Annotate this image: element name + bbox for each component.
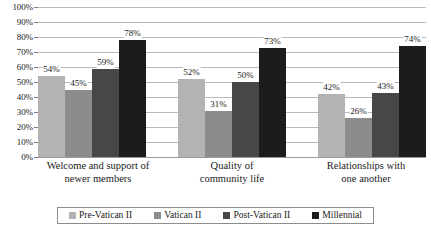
bar-value-label: 43% [376,81,395,92]
bar-pre-vatican-ii[interactable]: 54% [38,76,65,157]
legend-swatch-icon [312,212,319,219]
bar-wrap: 42% [318,7,345,157]
x-label-quality-community-life: Quality of community life [172,160,292,185]
legend-label: Millennial [322,210,362,221]
x-label-line: newer members [38,173,158,186]
bar-chart: 100% 90% 80% 70% 60% 50% 40% 30% 20% 10%… [0,0,431,233]
bar-wrap: 74% [399,7,426,157]
legend-label: Vatican II [164,210,201,221]
bar-vatican-ii[interactable]: 45% [65,90,92,158]
bar-pre-vatican-ii[interactable]: 52% [178,79,205,157]
bar-value-label: 74% [403,34,422,45]
y-tick-label: 100% [12,3,33,12]
legend-label: Post-Vatican II [233,210,290,221]
bar-wrap: 54% [38,7,65,157]
bar-wrap: 73% [259,7,286,157]
bar-wrap: 45% [65,7,92,157]
bar-wrap: 78% [119,7,146,157]
x-label-line: one another [306,173,426,186]
x-label-line: Relationships with [306,160,426,173]
bar-vatican-ii[interactable]: 31% [205,111,232,158]
bar-value-label: 73% [263,36,282,47]
bar-group-relationships: 42% 26% 43% 74% [318,7,426,157]
bar-wrap: 52% [178,7,205,157]
bar-value-label: 78% [123,28,142,39]
bar-millennial[interactable]: 73% [259,48,286,158]
bar-value-label: 42% [322,82,341,93]
bar-value-label: 52% [182,67,201,78]
axis-baseline [38,157,426,158]
bar-wrap: 43% [372,7,399,157]
legend-label: Pre-Vatican II [79,210,132,221]
y-tick-label: 60% [17,63,33,72]
y-tick-label: 40% [17,93,33,102]
legend-item-vatican-ii[interactable]: Vatican II [152,210,203,221]
bar-value-label: 54% [42,64,61,75]
bar-value-label: 50% [236,70,255,81]
legend-swatch-icon [69,212,76,219]
legend-item-millennial[interactable]: Millennial [310,210,364,221]
bar-pre-vatican-ii[interactable]: 42% [318,94,345,157]
bar-group-welcome-support: 54% 45% 59% 78% [38,7,146,157]
legend-swatch-icon [154,212,161,219]
legend-swatch-icon [223,212,230,219]
chart-legend: Pre-Vatican II Vatican II Post-Vatican I… [57,207,374,224]
x-label-line: Quality of [172,160,292,173]
y-tick-label: 80% [17,33,33,42]
bar-millennial[interactable]: 74% [399,46,426,157]
bar-wrap: 59% [92,7,119,157]
x-axis-labels: Welcome and support of newer members Qua… [38,160,426,185]
bar-value-label: 26% [349,106,368,117]
y-tick-label: 0% [21,153,33,162]
bar-group-quality-community-life: 52% 31% 50% 73% [178,7,286,157]
y-tick-label: 30% [17,108,33,117]
x-label-relationships: Relationships with one another [306,160,426,185]
legend-item-post-vatican-ii[interactable]: Post-Vatican II [221,210,292,221]
bar-post-vatican-ii[interactable]: 50% [232,82,259,157]
legend-item-pre-vatican-ii[interactable]: Pre-Vatican II [67,210,134,221]
y-tick-mark [34,157,38,158]
bar-vatican-ii[interactable]: 26% [345,118,372,157]
bar-groups: 54% 45% 59% 78% 52% [38,7,426,157]
bar-wrap: 50% [232,7,259,157]
y-tick-label: 50% [17,78,33,87]
bar-value-label: 59% [96,57,115,68]
bar-wrap: 31% [205,7,232,157]
bar-millennial[interactable]: 78% [119,40,146,157]
bar-wrap: 26% [345,7,372,157]
bar-post-vatican-ii[interactable]: 59% [92,69,119,158]
y-tick-label: 90% [17,18,33,27]
bar-value-label: 45% [69,78,88,89]
y-axis: 100% 90% 80% 70% 60% 50% 40% 30% 20% 10%… [0,0,33,164]
y-tick-label: 10% [17,138,33,147]
y-tick-label: 20% [17,123,33,132]
x-label-line: community life [172,173,292,186]
bar-post-vatican-ii[interactable]: 43% [372,93,399,158]
x-label-line: Welcome and support of [38,160,158,173]
x-label-welcome-support: Welcome and support of newer members [38,160,158,185]
bar-value-label: 31% [209,99,228,110]
y-tick-label: 70% [17,48,33,57]
